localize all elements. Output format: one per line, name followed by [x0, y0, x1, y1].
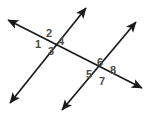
angle-label-8: 8: [108, 65, 118, 76]
lines-group: [8, 8, 142, 110]
angle-label-7: 7: [97, 76, 107, 87]
angle-label-2: 2: [44, 28, 54, 39]
geometry-canvas: [0, 0, 148, 116]
angle-label-4: 4: [56, 36, 66, 47]
line-transversal: [8, 20, 142, 88]
angle-label-3: 3: [46, 46, 56, 57]
angle-label-6: 6: [95, 57, 105, 68]
geometry-figure: 1 2 3 4 5 6 7 8: [0, 0, 148, 116]
angle-label-1: 1: [33, 39, 43, 50]
angle-label-5: 5: [84, 69, 94, 80]
